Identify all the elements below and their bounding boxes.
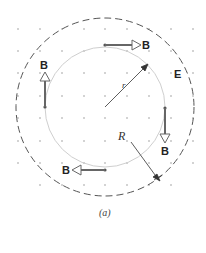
- b-label-bottom: B: [62, 164, 70, 176]
- b-label-right: B: [161, 145, 169, 157]
- b-label-top: B: [142, 39, 150, 51]
- b-vector-left: [40, 72, 50, 109]
- induced-magnetic-field-diagram: r R B B B B E (a): [0, 0, 206, 253]
- b-vector-top: [103, 40, 141, 50]
- radius-r-label: r: [122, 80, 126, 90]
- b-label-left: B: [40, 59, 48, 71]
- radius-R-arrow: [131, 142, 162, 181]
- radius-R-label: R: [117, 129, 126, 143]
- radius-r-arrow: [105, 64, 148, 107]
- b-vector-right: [160, 106, 170, 143]
- figure-caption: (a): [99, 207, 111, 219]
- e-field-label: E: [174, 68, 181, 80]
